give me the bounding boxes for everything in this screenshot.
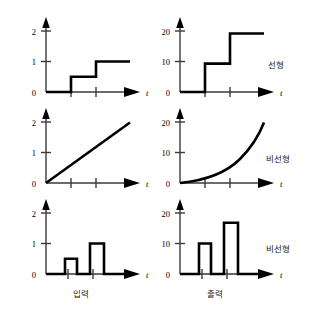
x-axis-arrowhead bbox=[124, 87, 140, 97]
plot-input-ramp: 2 1 0 t bbox=[18, 105, 158, 197]
plot-input-step: 2 1 0 t bbox=[18, 14, 158, 106]
x-axis-arrowhead bbox=[124, 178, 140, 188]
row-label-nonlinear-curve: 비선형 bbox=[266, 152, 290, 164]
y-tick-label-1: 1 bbox=[32, 57, 36, 67]
y-tick-label-0: 0 bbox=[32, 88, 36, 98]
y-axis-arrowhead bbox=[176, 17, 184, 28]
figure-container: 2 1 0 t 20 10 0 t 선형 bbox=[0, 0, 319, 314]
y-tick-label-0: 0 bbox=[166, 88, 170, 98]
y-tick-label-1: 1 bbox=[32, 148, 36, 158]
data-series-pulses bbox=[46, 244, 126, 275]
column-label-output: 출력 bbox=[180, 287, 250, 299]
y-tick-label-2: 2 bbox=[32, 27, 36, 37]
x-axis-arrowhead bbox=[258, 87, 274, 97]
data-series-exponential bbox=[180, 123, 264, 184]
x-axis-variable-label: t bbox=[280, 88, 283, 98]
x-axis-arrowhead bbox=[258, 269, 274, 279]
y-tick-label-20: 20 bbox=[162, 209, 171, 219]
x-axis-arrowhead bbox=[258, 178, 274, 188]
y-axis-arrowhead bbox=[42, 17, 50, 28]
y-axis-arrowhead bbox=[176, 108, 184, 119]
x-axis-variable-label: t bbox=[280, 270, 283, 280]
plot-input-pulses: 2 1 0 t bbox=[18, 196, 158, 288]
y-tick-label-20: 20 bbox=[162, 27, 171, 37]
data-series-pulses bbox=[180, 223, 260, 274]
y-tick-label-10: 10 bbox=[162, 239, 171, 249]
y-tick-label-1: 1 bbox=[32, 239, 36, 249]
y-tick-label-0: 0 bbox=[32, 270, 36, 280]
x-axis-variable-label: t bbox=[280, 179, 283, 189]
plot-input-pulses-svg: 2 1 0 t bbox=[18, 196, 158, 288]
y-tick-label-20: 20 bbox=[162, 118, 171, 128]
y-axis-arrowhead bbox=[42, 199, 50, 210]
data-series-staircase bbox=[180, 34, 264, 93]
row-label-linear: 선형 bbox=[268, 58, 284, 70]
y-tick-label-2: 2 bbox=[32, 209, 36, 219]
y-tick-label-10: 10 bbox=[162, 148, 171, 158]
y-tick-label-10: 10 bbox=[162, 57, 171, 67]
x-axis-variable-label: t bbox=[146, 88, 149, 98]
data-series-ramp bbox=[46, 123, 130, 184]
y-tick-label-0: 0 bbox=[166, 179, 170, 189]
y-tick-label-0: 0 bbox=[166, 270, 170, 280]
y-axis-arrowhead bbox=[176, 199, 184, 210]
x-axis-variable-label: t bbox=[146, 179, 149, 189]
x-axis-variable-label: t bbox=[146, 270, 149, 280]
plot-input-step-svg: 2 1 0 t bbox=[18, 14, 158, 106]
y-tick-label-2: 2 bbox=[32, 118, 36, 128]
plot-output-curve: 20 10 0 t bbox=[152, 105, 292, 197]
x-axis-arrowhead bbox=[124, 269, 140, 279]
row-label-nonlinear-pulses: 비선형 bbox=[266, 242, 290, 254]
column-label-input: 입력 bbox=[46, 287, 116, 299]
y-axis-arrowhead bbox=[42, 108, 50, 119]
plot-output-curve-svg: 20 10 0 t bbox=[152, 105, 292, 197]
plot-input-ramp-svg: 2 1 0 t bbox=[18, 105, 158, 197]
data-series-staircase bbox=[46, 62, 130, 93]
y-tick-label-0: 0 bbox=[32, 179, 36, 189]
